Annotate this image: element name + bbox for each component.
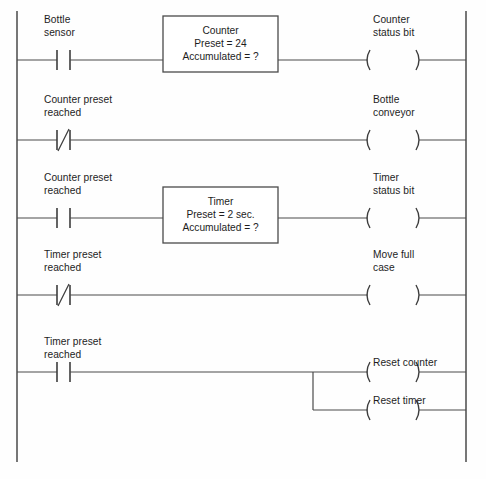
rung-1-coil-label-line2: status bit (373, 27, 414, 40)
rung-4-coil-left-paren (367, 285, 370, 305)
rung-2-coil-label-line1: Bottle (373, 94, 399, 107)
rung-1-contact-label-line1: Bottle (44, 14, 70, 27)
rung-2-contact-label-line2: reached (44, 107, 81, 120)
rung-4-contact-label-line1: Timer preset (44, 249, 101, 262)
rung-3-coil-label-line1: Timer (373, 172, 399, 185)
rung-4-coil-right-paren (416, 285, 419, 305)
rung-2-contact-slash (58, 129, 69, 151)
rung-1-coil-label-line1: Counter (373, 14, 410, 27)
rung-4-coil-label-line2: case (373, 262, 395, 275)
timer-block-line1: Timer (163, 195, 278, 208)
rung-3-coil-left-paren (367, 208, 370, 228)
rung-1-coil-left-paren (367, 50, 370, 70)
rung-3-contact-label-line2: reached (44, 185, 81, 198)
rung-2-coil-right-paren (416, 130, 419, 150)
counter-block-line3: Accumulated = ? (163, 50, 278, 63)
counter-block-line2: Preset = 24 (163, 37, 278, 50)
rung-2-coil-label-line2: conveyor (373, 107, 415, 120)
rung-2-coil-left-paren (367, 130, 370, 150)
rung-3-coil-label-line2: status bit (373, 185, 414, 198)
rung-5-coil-a-left-paren (367, 362, 370, 382)
timer-block-line3: Accumulated = ? (163, 221, 278, 234)
ladder-logic-diagram: Bottle sensor Counter Preset = 24 Accumu… (0, 0, 486, 479)
counter-block-line1: Counter (163, 24, 278, 37)
rung-3-coil-right-paren (416, 208, 419, 228)
rung-4-contact-slash (58, 284, 69, 306)
timer-block-line2: Preset = 2 sec. (163, 208, 278, 221)
rung-4-contact-label-line2: reached (44, 262, 81, 275)
rung-5-coil-a-label: Reset counter (373, 357, 437, 370)
rung-1-contact-label-line2: sensor (44, 27, 75, 40)
rung-5-contact-label-line2: reached (44, 349, 81, 362)
rung-5-coil-b-label: Reset timer (373, 395, 426, 408)
rung-1-coil-right-paren (416, 50, 419, 70)
rung-3-contact-label-line1: Counter preset (44, 172, 112, 185)
rung-5-coil-b-left-paren (367, 400, 370, 420)
rung-2-contact-label-line1: Counter preset (44, 94, 112, 107)
rung-4-coil-label-line1: Move full (373, 249, 414, 262)
rung-5-contact-label-line1: Timer preset (44, 336, 101, 349)
